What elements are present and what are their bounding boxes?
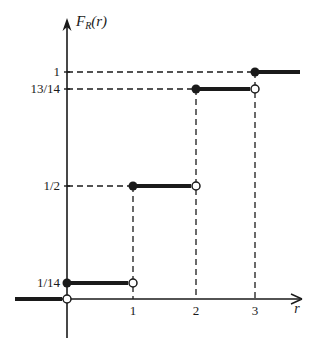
y-axis-title: FR(r): [75, 13, 107, 31]
open-point-2: [192, 182, 200, 190]
cdf-step-chart: FR(r) 1 13/14 1/2 1/14 1 2 3 r: [0, 0, 320, 345]
x-axis-title: r: [294, 301, 300, 316]
x-tick-label-2: 2: [193, 303, 200, 318]
closed-point-2: [192, 85, 201, 94]
closed-point-3: [251, 68, 260, 77]
open-points: [63, 85, 259, 303]
y-tick-label-1-2: 1/2: [43, 178, 60, 193]
open-point-3: [251, 85, 259, 93]
open-point-0: [63, 295, 71, 303]
open-point-1: [129, 279, 137, 287]
y-tick-label-1-14: 1/14: [37, 275, 61, 290]
x-tick-label-3: 3: [252, 303, 259, 318]
closed-points: [63, 68, 260, 288]
y-tick-label-1: 1: [54, 64, 61, 79]
closed-point-0: [63, 279, 72, 288]
y-tick-label-13-14: 13/14: [30, 81, 60, 96]
x-tick-label-1: 1: [130, 303, 137, 318]
closed-point-1: [129, 182, 138, 191]
